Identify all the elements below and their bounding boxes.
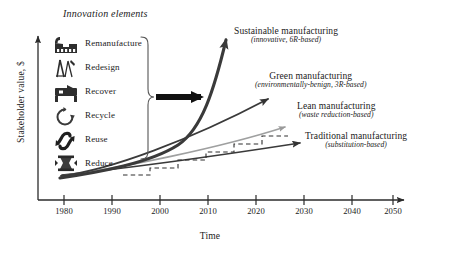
x-tick-label-1990: 1990 <box>92 206 132 216</box>
recycle-circle-icon <box>52 106 80 128</box>
x-tick-label-2030: 2030 <box>284 206 324 216</box>
x-tick-label-2010: 2010 <box>188 206 228 216</box>
curve-label-traditional-manufacturing: Traditional manufacturing (substitution-… <box>305 131 407 149</box>
curve-label-qualifier: (environmentally-benign, 3R-based) <box>255 81 367 89</box>
compress-icon <box>52 154 80 176</box>
innovation-elements-brace <box>141 37 154 159</box>
x-tick-label-2040: 2040 <box>332 206 372 216</box>
curve-label-qualifier: (waste reduction-based) <box>297 111 376 119</box>
innovation-element-label: Recycle <box>85 110 115 120</box>
x-axis-label: Time <box>170 231 250 241</box>
workbench-icon <box>52 82 80 104</box>
curve-label-lean-manufacturing: Lean manufacturing (waste reduction-base… <box>297 101 376 119</box>
innovation-element-label: Reuse <box>85 134 108 144</box>
innovation-element-label: Reduce <box>85 158 113 168</box>
x-tick-label-2020: 2020 <box>236 206 276 216</box>
x-tick-label-2050: 2050 <box>373 206 413 216</box>
x-tick-label-1980: 1980 <box>44 206 84 216</box>
innovation-elements-title: Innovation elements <box>63 8 148 19</box>
innovation-element-label: Recover <box>85 86 116 96</box>
curve-label-qualifier: (innovative, 6R-based) <box>234 36 338 44</box>
y-axis-label: Stakeholder value, $ <box>16 37 26 167</box>
curve-label-sustainable-manufacturing: Sustainable manufacturing (innovative, 6… <box>234 26 338 44</box>
innovation-element-label: Remanufacture <box>85 38 142 48</box>
drafting-tools-icon <box>52 58 80 80</box>
x-tick-label-2000: 2000 <box>140 206 180 216</box>
curve-label-green-manufacturing: Green manufacturing (environmentally-ben… <box>255 71 367 89</box>
figure-sustainable-manufacturing-evolution: Innovation elements Stakeholder value, $… <box>0 0 449 254</box>
reuse-arrows-icon <box>52 130 80 152</box>
innovation-element-label: Redesign <box>85 62 120 72</box>
factory-icon <box>52 34 80 56</box>
curve-label-qualifier: (substitution-based) <box>305 141 407 149</box>
